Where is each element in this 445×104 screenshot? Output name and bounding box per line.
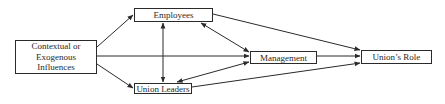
- edge-context-leaders: [97, 64, 133, 88]
- node-employees-label: Employees: [154, 10, 194, 20]
- node-union-leaders: Union Leaders: [134, 83, 192, 94]
- edge-employees-management: [201, 23, 249, 52]
- label-line: Influences: [31, 62, 80, 73]
- node-management-label: Management: [260, 53, 307, 63]
- edge-leaders-role: [192, 63, 360, 87]
- node-unions-role-label: Union’s Role: [373, 52, 421, 62]
- edge-context-employees: [97, 15, 133, 47]
- node-unions-role: Union’s Role: [361, 50, 432, 64]
- node-contextual-influences-label: Contextual or Exogenous Influences: [31, 41, 80, 73]
- label-line: Exogenous: [31, 52, 80, 63]
- node-employees: Employees: [134, 8, 213, 22]
- edge-employees-role: [213, 14, 360, 50]
- node-union-leaders-label: Union Leaders: [136, 84, 189, 94]
- path-diagram: Contextual or Exogenous Influences Emplo…: [0, 0, 445, 104]
- node-contextual-influences: Contextual or Exogenous Influences: [15, 40, 97, 74]
- edge-leaders-management: [177, 62, 249, 82]
- label-line: Contextual or: [31, 41, 80, 52]
- node-management: Management: [250, 51, 317, 64]
